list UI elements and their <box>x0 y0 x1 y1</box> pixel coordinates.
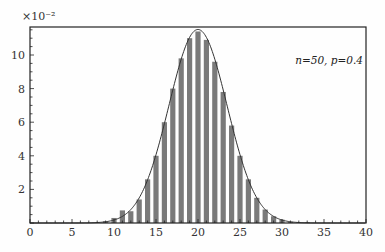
bar <box>221 92 226 223</box>
x-tick-label: 25 <box>233 226 247 239</box>
x-tick-label: 5 <box>69 226 76 239</box>
x-tick-label: 0 <box>27 226 34 239</box>
bar <box>145 179 150 223</box>
y-tick-label: 8 <box>18 83 25 96</box>
bars <box>95 31 310 223</box>
x-tick-label: 15 <box>149 226 163 239</box>
bar <box>170 89 175 223</box>
bar <box>179 58 184 223</box>
bar <box>137 199 142 223</box>
y-tick-label: 10 <box>11 49 25 62</box>
x-tick-label: 40 <box>359 226 373 239</box>
bar <box>204 40 209 223</box>
bar <box>212 62 217 223</box>
bar <box>195 31 200 223</box>
x-tick-label: 10 <box>107 226 121 239</box>
bar <box>187 38 192 223</box>
x-tick-label: 20 <box>191 226 205 239</box>
x-tick-label: 35 <box>317 226 331 239</box>
annotation-params: n=50, p=0.4 <box>295 54 363 66</box>
bar <box>246 179 251 223</box>
bar <box>153 156 158 223</box>
y-tick-label: 4 <box>18 150 25 163</box>
y-tick-label: 2 <box>18 183 25 196</box>
y-multiplier-label: ×10⁻² <box>22 10 55 23</box>
x-tick-label: 30 <box>275 226 289 239</box>
bar <box>162 122 167 223</box>
binomial-chart: 0510152025303540 246810 ×10⁻² n=50, p=0.… <box>0 0 385 252</box>
y-tick-label: 6 <box>18 116 25 129</box>
bar <box>229 126 234 223</box>
bar <box>237 156 242 223</box>
